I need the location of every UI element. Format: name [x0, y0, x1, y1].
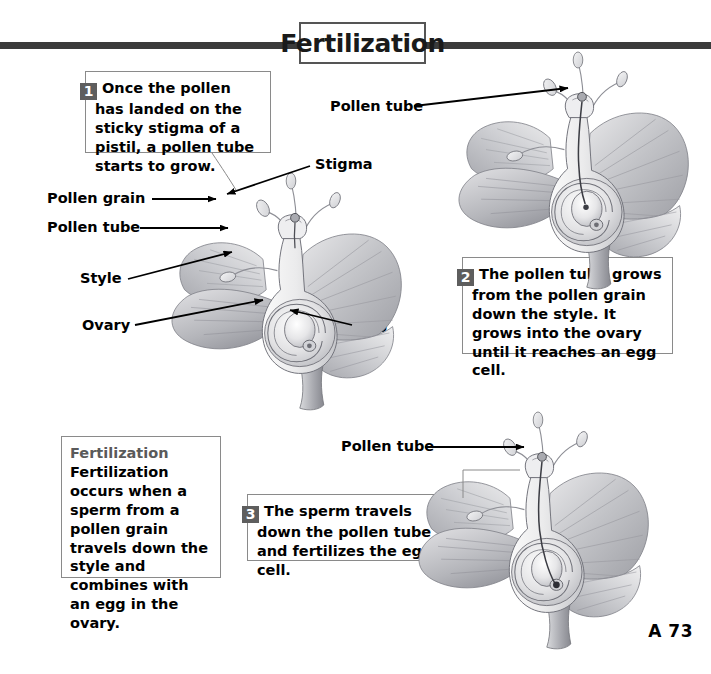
label-egg-1: Egg: [357, 316, 388, 332]
step-1-text: Once the pollen has landed on the sticky…: [95, 80, 254, 174]
step-2-text: The pollen tube grows from the pollen gr…: [472, 266, 662, 378]
leader-callout-3: [463, 470, 520, 498]
step-1-callout: 1Once the pollen has landed on the stick…: [85, 71, 271, 153]
leader-style-1: [128, 252, 232, 279]
page-number: A 73: [648, 621, 693, 641]
step-3-callout: 3The sperm travels down the pollen tube …: [247, 494, 463, 561]
textbook-page: Fertilization: [0, 0, 711, 674]
leader-ovary-1: [135, 300, 263, 325]
step-3-text: The sperm travels down the pollen tube a…: [257, 503, 432, 578]
fertilization-definition-box: Fertilization Fertilization occurs when …: [61, 436, 221, 578]
flower-cross-section-1: [172, 173, 401, 410]
label-pollen-grain-1: Pollen grain: [47, 190, 145, 206]
page-title: Fertilization: [280, 29, 445, 58]
step-1-paragraph: 1Once the pollen has landed on the stick…: [95, 79, 261, 175]
step-2-badge: 2: [457, 269, 474, 286]
label-pollen-tube-1: Pollen tube: [47, 219, 140, 235]
step-2-paragraph: 2The pollen tube grows from the pollen g…: [472, 265, 663, 380]
step-3-paragraph: 3The sperm travels down the pollen tube …: [257, 502, 453, 580]
label-pollen-tube-3: Pollen tube: [341, 438, 434, 454]
leader-pollen-tube-2: [414, 88, 568, 106]
label-stigma-1: Stigma: [315, 156, 373, 172]
definition-heading: Fertilization: [70, 444, 212, 462]
flower-cross-section-2: [459, 52, 688, 289]
label-pollen-tube-2: Pollen tube: [330, 98, 423, 114]
step-2-callout: 2The pollen tube grows from the pollen g…: [462, 257, 673, 354]
label-ovary-1: Ovary: [82, 317, 130, 333]
step-1-badge: 1: [80, 83, 97, 100]
page-title-box: Fertilization: [299, 22, 426, 64]
leader-egg-1: [290, 310, 352, 325]
label-style-1: Style: [80, 270, 122, 286]
step-3-badge: 3: [242, 506, 259, 523]
definition-body: Fertilization occurs when a sperm from a…: [70, 463, 212, 633]
